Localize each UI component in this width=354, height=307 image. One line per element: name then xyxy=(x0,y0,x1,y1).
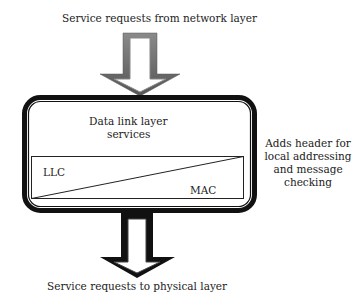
annotation-line1: Adds header for xyxy=(262,137,354,150)
llc-label: LLC xyxy=(43,166,65,179)
annotation: Adds header for local addressing and mes… xyxy=(262,137,354,189)
top-label: Service requests from network layer xyxy=(62,12,257,25)
annotation-line3: and message xyxy=(262,163,354,176)
bottom-label: Service requests to physical layer xyxy=(47,280,227,293)
annotation-line4: checking xyxy=(262,176,354,189)
annotation-line2: local addressing xyxy=(262,150,354,163)
box-title-line1: Data link layer xyxy=(89,115,167,128)
down-arrow-to-physical-icon xyxy=(100,213,175,278)
mac-label: MAC xyxy=(190,184,216,197)
down-arrow-from-network-icon xyxy=(100,33,180,96)
box-title-line2: services xyxy=(107,128,150,141)
